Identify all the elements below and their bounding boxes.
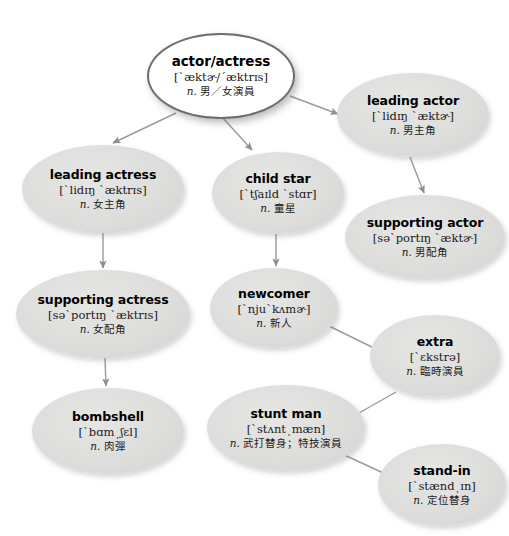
node-phonetic: [ˋlidɪŋ ˋæktɚ]	[372, 110, 454, 123]
node-part-of-speech: n.	[402, 246, 412, 258]
node-meaning: n. 武打替身；特技演員	[230, 438, 342, 450]
edge-root-leading-actress	[113, 113, 176, 143]
edge-supp-actress-bombshell	[105, 358, 106, 386]
node-definition-cn: 男主角	[403, 124, 436, 136]
node-phonetic: [ˋtʃaɪld ˋstɑr]	[240, 188, 317, 201]
node-phonetic: [ˋstændͺɪn]	[408, 480, 476, 493]
node-term: actor/actress	[172, 54, 271, 69]
node-meaning: n. 男主角	[390, 125, 436, 137]
edge-root-leading-actor	[290, 96, 338, 114]
node-part-of-speech: n.	[256, 317, 266, 329]
node-meaning: n. 肉彈	[90, 441, 125, 453]
node-part-of-speech: n.	[413, 494, 423, 506]
node-meaning: n. 童星	[260, 203, 295, 215]
node-definition-cn: 男配角	[415, 246, 448, 258]
node-part-of-speech: n.	[406, 365, 416, 377]
node-part-of-speech: n.	[390, 124, 400, 136]
vocabulary-mind-map: actor/actress[ˋæktɚ/ˊæktrɪs]n. 男／女演員lead…	[0, 0, 509, 536]
node-part-of-speech: n.	[230, 437, 240, 449]
node-meaning: n. 男／女演員	[187, 86, 255, 98]
node-term: leading actor	[367, 94, 459, 108]
node-stunt-man[interactable]: stunt man[ˋstʌntͺmæn]n. 武打替身；特技演員	[207, 385, 365, 471]
node-phonetic: [ˋstʌntͺmæn]	[247, 423, 326, 436]
node-part-of-speech: n.	[90, 440, 100, 452]
node-meaning: n. 女主角	[80, 199, 126, 211]
node-term: stunt man	[251, 407, 322, 421]
node-phonetic: [səˋportɪŋ ˋæktrɪs]	[48, 309, 158, 322]
node-meaning: n. 定位替身	[413, 495, 470, 507]
node-definition-cn: 肉彈	[104, 440, 126, 452]
node-phonetic: [ˋlidɪŋ ˋæktrɪs]	[59, 184, 146, 197]
node-definition-cn: 武打替身；特技演員	[243, 437, 342, 449]
node-meaning: n. 新人	[256, 318, 291, 330]
node-term: newcomer	[238, 287, 310, 301]
node-phonetic: [ˋbɑmͺʃɛl]	[79, 426, 138, 439]
node-term: supporting actress	[38, 293, 169, 307]
node-term: stand-in	[413, 464, 470, 478]
node-term: leading actress	[50, 168, 156, 182]
node-phonetic: [ˋɛkstrə]	[410, 351, 460, 364]
node-definition-cn: 女主角	[93, 198, 126, 210]
node-definition-cn: 臨時演員	[420, 365, 464, 377]
node-definition-cn: 男／女演員	[200, 85, 255, 97]
node-meaning: n. 男配角	[402, 247, 448, 259]
node-part-of-speech: n.	[260, 202, 270, 214]
node-term: supporting actor	[367, 216, 483, 230]
node-definition-cn: 童星	[274, 202, 296, 214]
node-definition-cn: 女配角	[93, 323, 126, 335]
node-child-star[interactable]: child star[ˋtʃaɪld ˋstɑr]n. 童星	[212, 152, 344, 234]
node-term: extra	[417, 335, 454, 349]
node-extra[interactable]: extra[ˋɛkstrə]n. 臨時演員	[370, 315, 500, 397]
node-part-of-speech: n.	[80, 323, 90, 335]
node-leading-actress[interactable]: leading actress[ˋlidɪŋ ˋæktrɪs]n. 女主角	[22, 145, 184, 233]
node-phonetic: [ˋnjuˋkʌmɚ]	[238, 303, 311, 316]
node-stand-in[interactable]: stand-in[ˋstændͺɪn]n. 定位替身	[378, 444, 506, 526]
node-actor-actress[interactable]: actor/actress[ˋæktɚ/ˊæktrɪs]n. 男／女演員	[147, 33, 295, 119]
node-leading-actor[interactable]: leading actor[ˋlidɪŋ ˋæktɚ]n. 男主角	[337, 73, 489, 157]
node-phonetic: [ˋæktɚ/ˊæktrɪs]	[174, 71, 268, 84]
node-definition-cn: 新人	[270, 317, 292, 329]
node-meaning: n. 女配角	[80, 324, 126, 336]
edge-root-child-star	[223, 118, 252, 150]
node-supporting-actor[interactable]: supporting actor[səˋportɪŋ ˋæktɚ]n. 男配角	[345, 195, 505, 279]
node-definition-cn: 定位替身	[427, 494, 471, 506]
edge-leading-actor-supporting	[410, 157, 424, 193]
node-newcomer[interactable]: newcomer[ˋnjuˋkʌmɚ]n. 新人	[210, 268, 338, 348]
node-term: bombshell	[72, 410, 144, 424]
node-part-of-speech: n.	[187, 85, 197, 97]
node-meaning: n. 臨時演員	[406, 366, 463, 378]
node-supporting-actress[interactable]: supporting actress[səˋportɪŋ ˋæktrɪs]n. …	[16, 270, 190, 358]
node-term: child star	[245, 172, 310, 186]
node-part-of-speech: n.	[80, 198, 90, 210]
node-phonetic: [səˋportɪŋ ˋæktɚ]	[373, 232, 477, 245]
node-bombshell[interactable]: bombshell[ˋbɑmͺʃɛl]n. 肉彈	[32, 388, 184, 474]
